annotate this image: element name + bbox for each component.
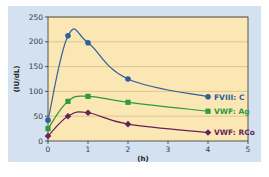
- legend-label-vwf-rco: VWF: RCo: [214, 128, 255, 137]
- y-tick-label: 0: [38, 137, 43, 146]
- y-axis-title: (IU/dL): [13, 66, 21, 93]
- y-tick-label: 250: [29, 13, 44, 22]
- x-tick-label: 4: [206, 145, 211, 154]
- y-tick-label: 200: [29, 37, 44, 46]
- square-marker-icon: [65, 99, 70, 104]
- square-marker-icon: [125, 100, 130, 105]
- circle-marker-icon: [125, 76, 131, 82]
- y-tick-label: 150: [29, 62, 44, 71]
- legend-label-vwf-ag: VWF: Ag: [214, 107, 250, 116]
- x-axis-ticks: 012345: [46, 141, 251, 154]
- circle-marker-icon: [85, 40, 91, 46]
- circle-marker-icon: [45, 117, 51, 123]
- circle-marker-icon: [205, 94, 211, 100]
- x-tick-label: 5: [246, 145, 251, 154]
- y-tick-label: 100: [29, 87, 44, 96]
- y-axis-ticks: 050100150200250: [29, 13, 48, 146]
- line-chart: 050100150200250 012345 FVIII: CVWF: AgVW…: [0, 0, 269, 177]
- x-tick-label: 0: [46, 145, 51, 154]
- circle-marker-icon: [65, 33, 71, 39]
- y-tick-label: 50: [33, 112, 43, 121]
- x-tick-label: 2: [126, 145, 131, 154]
- x-tick-label: 3: [166, 145, 171, 154]
- plot-area: [48, 17, 248, 141]
- square-marker-icon: [85, 94, 90, 99]
- legend-label-fviii-c: FVIII: C: [214, 93, 245, 102]
- square-marker-icon: [45, 126, 50, 131]
- x-axis-title: (h): [137, 155, 148, 163]
- square-marker-icon: [205, 109, 210, 114]
- plot-background: [48, 17, 248, 141]
- legend: FVIII: CVWF: AgVWF: RCo: [214, 93, 255, 138]
- x-tick-label: 1: [86, 145, 91, 154]
